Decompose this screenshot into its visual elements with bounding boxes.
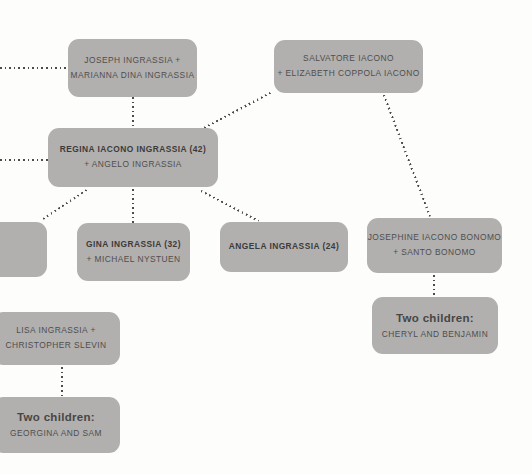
edge-salvatore-to-josephine bbox=[383, 95, 431, 217]
node-regina-angelo: REGINA IACONO INGRASSIA (42) + ANGELO IN… bbox=[48, 128, 218, 187]
edge-regina-to-partial-box bbox=[43, 188, 89, 219]
edge-lisa-to-children bbox=[61, 367, 63, 397]
children-names: GEORGINA AND SAM bbox=[10, 429, 102, 439]
edge-regina-to-angela bbox=[201, 190, 259, 221]
person-name: + ANGELO INGRASSIA bbox=[84, 160, 182, 170]
edge-josephine-to-children bbox=[433, 275, 435, 297]
person-name: + MICHAEL NYSTUEN bbox=[86, 255, 180, 265]
person-name: CHRISTOPHER SLEVIN bbox=[5, 341, 106, 351]
node-salvatore-elizabeth: SALVATORE IACONO + ELIZABETH COPPOLA IAC… bbox=[274, 40, 423, 93]
person-name: MARIANNA DINA INGRASSIA bbox=[71, 71, 195, 81]
node-gina-michael: GINA INGRASSIA (32) + MICHAEL NYSTUEN bbox=[77, 223, 190, 281]
edge-offscreen-to-joseph bbox=[0, 67, 66, 69]
children-heading: Two children: bbox=[17, 411, 95, 424]
person-name: JOSEPHINE IACONO BONOMO bbox=[368, 233, 502, 243]
person-name: + ELIZABETH COPPOLA IACONO bbox=[277, 69, 419, 79]
node-josephine-santo: JOSEPHINE IACONO BONOMO + SANTO BONOMO bbox=[367, 218, 502, 273]
node-lisa-christopher: LISA INGRASSIA + CHRISTOPHER SLEVIN bbox=[0, 312, 120, 365]
edge-joseph-to-regina bbox=[132, 97, 134, 128]
edge-regina-to-gina bbox=[132, 189, 134, 223]
person-name: + SANTO BONOMO bbox=[393, 248, 476, 258]
person-name: JOSEPH INGRASSIA + bbox=[84, 56, 180, 66]
node-partial-left bbox=[0, 222, 47, 277]
person-name: GINA INGRASSIA (32) bbox=[86, 240, 181, 250]
person-name: ANGELA INGRASSIA (24) bbox=[229, 242, 339, 252]
children-names: CHERYL AND BENJAMIN bbox=[382, 330, 488, 340]
person-name: REGINA IACONO INGRASSIA (42) bbox=[60, 145, 206, 155]
person-name: SALVATORE IACONO bbox=[303, 54, 394, 64]
edge-salvatore-to-regina bbox=[204, 91, 273, 128]
family-tree-canvas: JOSEPH INGRASSIA + MARIANNA DINA INGRASS… bbox=[0, 0, 532, 475]
node-joseph-marianna: JOSEPH INGRASSIA + MARIANNA DINA INGRASS… bbox=[68, 39, 197, 97]
edge-offscreen-to-regina bbox=[0, 159, 48, 161]
node-children-georgina-sam: Two children: GEORGINA AND SAM bbox=[0, 397, 120, 453]
person-name: LISA INGRASSIA + bbox=[16, 326, 96, 336]
children-heading: Two children: bbox=[396, 312, 474, 325]
node-children-cheryl-benjamin: Two children: CHERYL AND BENJAMIN bbox=[372, 297, 498, 354]
node-angela: ANGELA INGRASSIA (24) bbox=[220, 222, 348, 272]
